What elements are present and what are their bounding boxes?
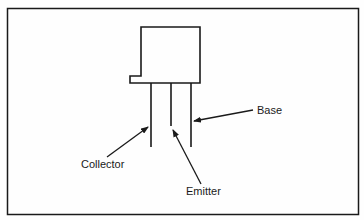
collector-arrow-icon [107,127,148,157]
emitter-arrow-icon [173,130,201,184]
collector-label: Collector [81,158,125,170]
transistor-diagram: Base Collector Emitter [0,0,364,220]
base-arrow-icon [194,110,253,121]
transistor-body [130,27,200,83]
base-label: Base [257,104,282,116]
diagram-frame [8,9,359,215]
diagram-canvas: Base Collector Emitter [0,0,364,220]
emitter-label: Emitter [186,185,221,197]
